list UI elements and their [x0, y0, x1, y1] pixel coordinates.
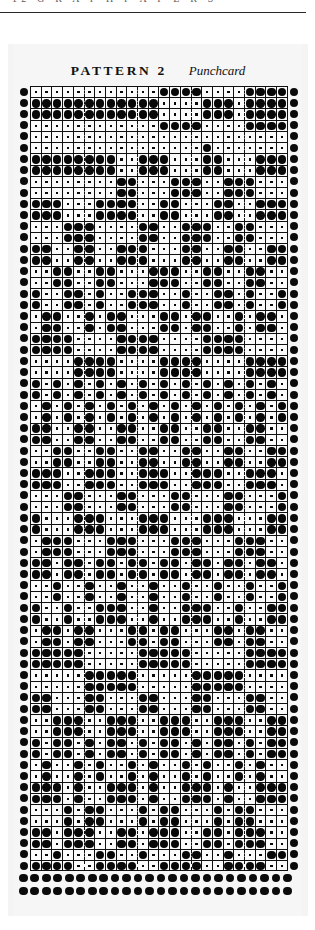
unpunched-cell — [202, 850, 213, 860]
unpunched-mark-icon — [131, 360, 133, 362]
unpunched-cell — [52, 827, 63, 837]
unpunched-cell — [138, 267, 149, 277]
unpunched-mark-icon — [99, 259, 101, 261]
punched-hole-icon — [246, 99, 254, 107]
punched-hole-icon — [214, 514, 222, 522]
punched-hole-cell — [74, 255, 85, 265]
unpunched-cell — [234, 637, 245, 647]
sprocket-hole-icon — [288, 602, 300, 613]
punched-hole-icon — [224, 335, 232, 343]
punched-hole-icon — [203, 840, 211, 848]
punched-hole-icon — [256, 267, 264, 275]
unpunched-mark-icon — [195, 136, 197, 138]
punched-hole-icon — [203, 279, 211, 287]
punched-hole-cell — [170, 323, 181, 333]
punched-hole-cell — [138, 255, 149, 265]
punched-hole-cell — [234, 188, 245, 198]
punched-hole-icon — [224, 514, 232, 522]
punchcard-row — [18, 512, 300, 523]
unpunched-mark-icon — [227, 405, 229, 407]
unpunched-mark-icon — [227, 439, 229, 441]
punched-hole-cell — [42, 569, 53, 579]
sprocket-hole-icon — [288, 714, 300, 725]
punchcard-row — [18, 759, 300, 770]
unpunched-cell — [192, 166, 203, 176]
unpunched-mark-icon — [120, 854, 122, 856]
punched-hole-icon — [85, 312, 93, 320]
punched-hole-cell — [31, 244, 42, 254]
unpunched-mark-icon — [185, 102, 187, 104]
unpunched-cell — [138, 614, 149, 624]
punched-hole-icon — [224, 783, 232, 791]
unpunched-mark-icon — [206, 495, 208, 497]
unpunched-cell — [266, 827, 277, 837]
unpunched-cell — [170, 109, 181, 119]
unpunched-cell — [52, 143, 63, 153]
unpunched-cell — [170, 850, 181, 860]
unpunched-mark-icon — [185, 674, 187, 676]
punched-hole-cell — [63, 412, 74, 422]
unpunched-mark-icon — [163, 136, 165, 138]
punched-hole-icon — [182, 245, 190, 253]
punched-hole-icon — [128, 189, 136, 197]
punched-hole-cell — [224, 300, 235, 310]
punched-hole-cell — [181, 367, 192, 377]
unpunched-cell — [245, 558, 256, 568]
punched-hole-cell — [245, 435, 256, 445]
punched-hole-icon — [214, 469, 222, 477]
punched-hole-cell — [202, 704, 213, 714]
unpunched-cell — [138, 682, 149, 692]
unpunched-cell — [159, 401, 170, 411]
unpunched-cell — [85, 603, 96, 613]
unpunched-cell — [192, 199, 203, 209]
unpunched-mark-icon — [217, 697, 219, 699]
punched-hole-cell — [202, 569, 213, 579]
punched-hole-cell — [245, 648, 256, 658]
punched-hole-icon — [246, 110, 254, 118]
punched-hole-cell — [234, 547, 245, 557]
punched-hole-cell — [42, 154, 53, 164]
punched-hole-cell — [85, 682, 96, 692]
unpunched-cell — [192, 210, 203, 220]
unpunched-cell — [202, 637, 213, 647]
unpunched-cell — [181, 468, 192, 478]
unpunched-cell — [31, 816, 42, 826]
unpunched-cell — [170, 166, 181, 176]
punched-hole-cell — [52, 626, 63, 636]
punched-hole-icon — [235, 492, 243, 500]
punched-hole-icon — [74, 223, 82, 231]
unpunched-mark-icon — [88, 618, 90, 620]
unpunched-cell — [266, 435, 277, 445]
unpunched-cell — [256, 334, 267, 344]
unpunched-mark-icon — [281, 181, 283, 183]
unpunched-mark-icon — [110, 708, 112, 710]
punched-hole-icon — [267, 615, 275, 623]
punched-hole-cell — [31, 839, 42, 849]
punched-hole-icon — [42, 694, 50, 702]
punched-hole-cell — [266, 323, 277, 333]
unpunched-mark-icon — [131, 327, 133, 329]
punched-hole-icon — [149, 99, 157, 107]
unpunched-cell — [181, 334, 192, 344]
punched-hole-cell — [170, 121, 181, 131]
unpunched-mark-icon — [249, 854, 251, 856]
unpunched-mark-icon — [110, 663, 112, 665]
unpunched-cell — [63, 783, 74, 793]
punched-hole-icon — [246, 694, 254, 702]
punched-hole-cell — [63, 749, 74, 759]
unpunched-cell — [63, 682, 74, 692]
punched-hole-cell — [245, 749, 256, 759]
punched-hole-cell — [277, 592, 288, 602]
unpunched-mark-icon — [88, 293, 90, 295]
punched-hole-icon — [117, 548, 125, 556]
sprocket-hole-icon — [226, 887, 235, 896]
unpunched-cell — [63, 693, 74, 703]
punched-hole-icon — [160, 211, 168, 219]
punched-hole-cell — [213, 581, 224, 591]
punched-hole-icon — [278, 166, 286, 174]
punched-hole-icon — [160, 200, 168, 208]
unpunched-mark-icon — [185, 203, 187, 205]
punched-hole-cell — [95, 805, 106, 815]
punched-hole-icon — [32, 649, 40, 657]
sprocket-hole-icon — [288, 243, 300, 254]
